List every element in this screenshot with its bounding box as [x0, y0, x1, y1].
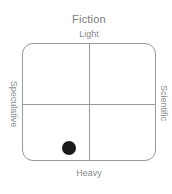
- axis-label-right: Scientific: [159, 85, 169, 121]
- vertical-divider: [89, 43, 90, 161]
- axis-label-top: Light: [0, 29, 172, 39]
- chart-title: Fiction: [0, 13, 172, 25]
- axis-label-bottom: Heavy: [0, 168, 172, 178]
- axis-label-left: Speculative: [9, 81, 19, 128]
- horizontal-divider: [22, 104, 156, 105]
- data-point: [62, 141, 76, 155]
